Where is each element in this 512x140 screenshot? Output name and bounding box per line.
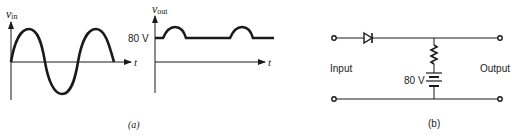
input-terminal-bottom [332,97,336,101]
t-axis-label-left: t [134,56,138,68]
diode-icon [364,33,372,43]
vin-label: vin [6,7,18,21]
clipped-wave [155,27,274,38]
vout-label: vout [152,2,168,16]
diagram-canvas: vin t vout 80 V t (a) [0,0,512,140]
output-waveform-graph: vout 80 V t [128,2,274,93]
battery-voltage-label: 80 V [404,75,425,86]
input-label: Input [330,63,352,74]
input-terminal-top [332,36,336,40]
input-waveform-graph: vin t [6,7,138,100]
clipper-circuit [332,33,502,101]
output-terminal-top [498,36,502,40]
caption-b: (b) [428,118,440,129]
output-terminal-bottom [498,97,502,101]
t-axis-label-right: t [268,56,272,68]
output-label: Output [480,63,510,74]
battery-icon [426,73,442,86]
caption-a: (a) [128,119,140,131]
level-80v-label: 80 V [128,33,149,44]
resistor-icon [431,45,437,64]
